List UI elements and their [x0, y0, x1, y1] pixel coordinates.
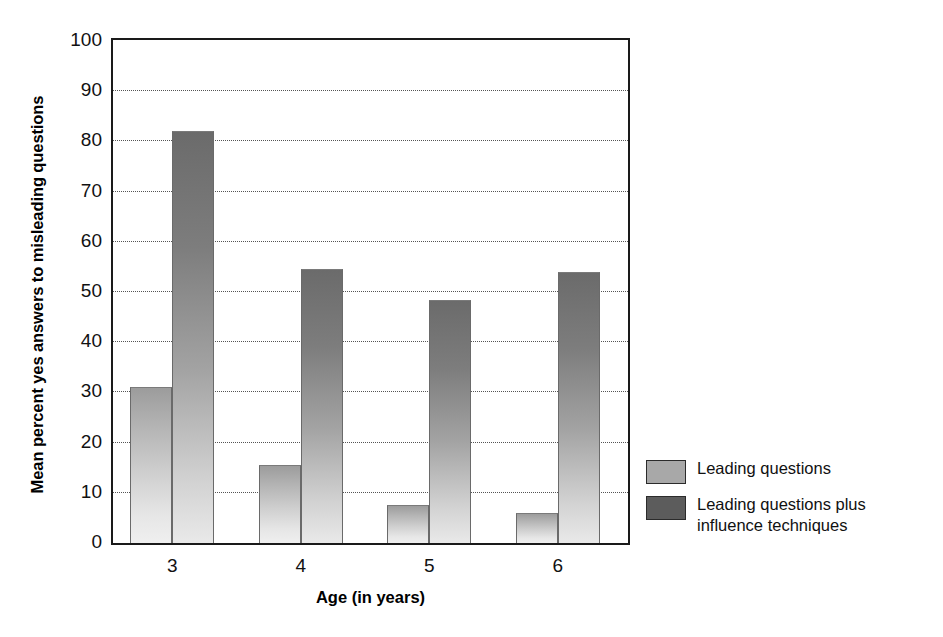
bar-6-series2 [558, 272, 600, 543]
bar-4-series2 [301, 269, 343, 543]
x-tick-label-5: 5 [399, 555, 459, 577]
y-tick-label: 40 [42, 330, 102, 352]
y-tick-label: 80 [42, 129, 102, 151]
bar-5-series2 [429, 300, 471, 543]
x-tick-label-3: 3 [142, 555, 202, 577]
legend-swatch-icon [646, 460, 686, 484]
x-axis-title: Age (in years) [111, 588, 630, 607]
y-tick-label: 90 [42, 79, 102, 101]
legend-swatch-icon [646, 496, 686, 520]
legend-label: Leading questions plus influence techniq… [697, 494, 936, 536]
legend-item: Leading questions plus influence techniq… [646, 494, 936, 536]
bar-3-series1 [130, 387, 172, 543]
bar-6-series1 [516, 513, 558, 543]
legend-item: Leading questions [646, 458, 936, 484]
x-tick-label-4: 4 [271, 555, 331, 577]
legend-label: Leading questions [697, 458, 831, 479]
y-tick-label: 50 [42, 280, 102, 302]
x-tick-label-6: 6 [528, 555, 588, 577]
y-tick-label: 0 [42, 531, 102, 553]
plot-inner: 01020304050607080901003456 [113, 40, 628, 543]
y-tick-label: 100 [42, 29, 102, 51]
gridline [113, 90, 628, 91]
plot-area: 01020304050607080901003456 [111, 38, 630, 545]
chart-legend: Leading questionsLeading questions plus … [646, 458, 936, 546]
y-tick-label: 70 [42, 180, 102, 202]
y-tick-label: 20 [42, 431, 102, 453]
y-tick-label: 60 [42, 230, 102, 252]
bar-4-series1 [259, 465, 301, 543]
bar-chart-figure: Mean percent yes answers to misleading q… [0, 0, 943, 637]
bar-5-series1 [387, 505, 429, 543]
y-tick-label: 10 [42, 481, 102, 503]
bar-3-series2 [172, 131, 214, 543]
y-tick-label: 30 [42, 380, 102, 402]
